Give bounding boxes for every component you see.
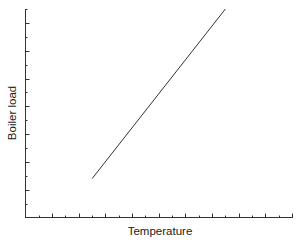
y-axis-label: Boiler load	[6, 86, 18, 140]
chart: Temperature Boiler load	[0, 0, 301, 243]
data-line	[92, 9, 225, 179]
x-axis	[25, 214, 293, 218]
x-axis-label: Temperature	[128, 225, 193, 237]
y-axis	[26, 9, 30, 218]
